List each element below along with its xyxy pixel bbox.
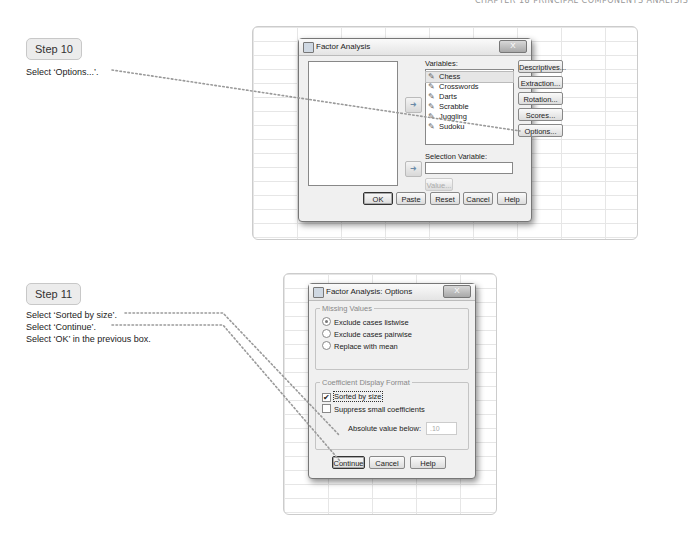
spss-dialog-icon bbox=[303, 42, 314, 53]
variable-item[interactable]: ✎Scrabble bbox=[426, 102, 513, 112]
step-10-instruction: Select ‘Options...’. bbox=[26, 66, 99, 78]
continue-button[interactable]: Continue bbox=[332, 456, 365, 469]
move-to-variables-arrow-icon[interactable]: ➜ bbox=[405, 97, 422, 113]
spss-dialog-icon bbox=[313, 287, 324, 298]
scale-variable-icon: ✎ bbox=[428, 92, 435, 102]
scale-variable-icon: ✎ bbox=[428, 72, 435, 82]
radio-unselected-icon bbox=[322, 329, 331, 338]
radio-exclude-listwise[interactable]: Exclude cases listwise bbox=[322, 317, 409, 328]
close-button[interactable]: X bbox=[443, 285, 471, 298]
source-variable-list[interactable] bbox=[308, 61, 398, 186]
value-button[interactable]: Value... bbox=[425, 178, 453, 191]
scale-variable-icon: ✎ bbox=[428, 122, 435, 132]
ok-button[interactable]: OK bbox=[363, 192, 393, 205]
step-11-instruction-2: Select ‘Continue’. bbox=[26, 321, 96, 333]
absolute-value-field[interactable]: .10 bbox=[426, 422, 457, 435]
variable-item[interactable]: ✎Darts bbox=[426, 92, 513, 102]
missing-values-group: Missing Values Exclude cases listwise Ex… bbox=[315, 308, 469, 370]
factor-analysis-titlebar: Factor Analysis X bbox=[299, 39, 531, 56]
sorted-by-size-checkbox[interactable]: ✔Sorted by size bbox=[322, 391, 382, 402]
cancel-button[interactable]: Cancel bbox=[463, 192, 493, 205]
variables-label: Variables: bbox=[425, 59, 458, 68]
suppress-small-checkbox[interactable]: Suppress small coefficients bbox=[322, 404, 425, 415]
step-11-badge: Step 11 bbox=[26, 283, 81, 305]
radio-exclude-pairwise[interactable]: Exclude cases pairwise bbox=[322, 329, 412, 340]
variable-item[interactable]: ✎Sudoku bbox=[426, 122, 513, 132]
reset-button[interactable]: Reset bbox=[430, 192, 460, 205]
variable-item[interactable]: ✎Crosswords bbox=[426, 82, 513, 92]
variable-item[interactable]: ✎Juggling bbox=[426, 112, 513, 122]
selection-variable-field[interactable] bbox=[425, 162, 513, 174]
options-button[interactable]: Options... bbox=[518, 124, 563, 137]
step-11-instruction-1: Select ‘Sorted by size’. bbox=[26, 309, 117, 321]
rotation-button[interactable]: Rotation... bbox=[518, 92, 563, 105]
extraction-button[interactable]: Extraction... bbox=[518, 76, 563, 89]
step-11-instruction-3: Select ‘OK’ in the previous box. bbox=[26, 333, 151, 345]
scale-variable-icon: ✎ bbox=[428, 82, 435, 92]
scale-variable-icon: ✎ bbox=[428, 102, 435, 112]
variable-item[interactable]: ✎Chess bbox=[426, 72, 513, 82]
coefficient-display-legend: Coefficient Display Format bbox=[320, 378, 412, 387]
scores-button[interactable]: Scores... bbox=[518, 108, 563, 121]
radio-unselected-icon bbox=[322, 341, 331, 350]
step-10-badge: Step 10 bbox=[26, 38, 82, 60]
paste-button[interactable]: Paste bbox=[396, 192, 426, 205]
factor-options-dialog: Factor Analysis: Options X Missing Value… bbox=[308, 283, 476, 479]
factor-analysis-dialog: Factor Analysis X ➜ Variables: ✎Chess ✎C… bbox=[298, 38, 532, 222]
checkmark-icon: ✔ bbox=[322, 393, 331, 402]
scale-variable-icon: ✎ bbox=[428, 112, 435, 122]
missing-values-legend: Missing Values bbox=[320, 304, 374, 313]
dialog-title: Factor Analysis bbox=[316, 42, 370, 51]
radio-selected-icon bbox=[322, 317, 331, 326]
help-button[interactable]: Help bbox=[410, 456, 446, 469]
variables-list[interactable]: ✎Chess ✎Crosswords ✎Darts ✎Scrabble ✎Jug… bbox=[425, 69, 514, 145]
descriptives-button[interactable]: Descriptives... bbox=[518, 60, 563, 73]
options-titlebar: Factor Analysis: Options X bbox=[309, 284, 475, 301]
help-button[interactable]: Help bbox=[497, 192, 527, 205]
coefficient-display-group: Coefficient Display Format ✔Sorted by si… bbox=[315, 382, 469, 450]
close-button[interactable]: X bbox=[499, 40, 527, 53]
cancel-button[interactable]: Cancel bbox=[369, 456, 405, 469]
absolute-value-label: Absolute value below: bbox=[348, 424, 421, 433]
running-head: CHAPTER 18 PRINCIPAL COMPONENTS ANALYSIS bbox=[475, 0, 688, 5]
dialog-title: Factor Analysis: Options bbox=[326, 287, 412, 296]
unchecked-box-icon bbox=[322, 404, 331, 413]
radio-replace-with-mean[interactable]: Replace with mean bbox=[322, 341, 398, 352]
move-to-selection-arrow-icon[interactable]: ➜ bbox=[405, 161, 422, 177]
selection-variable-label: Selection Variable: bbox=[425, 152, 487, 161]
